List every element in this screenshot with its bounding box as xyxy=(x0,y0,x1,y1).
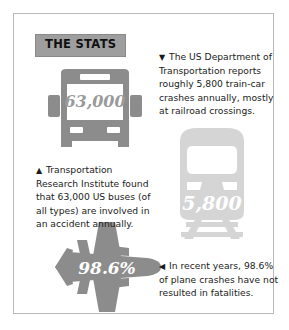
train-illustration: 5,800 xyxy=(166,126,258,239)
plane-callout-text: In recent years, 98.6% of plane crashes … xyxy=(159,260,278,298)
stats-badge-label: THE STATS xyxy=(45,39,116,51)
bus-callout: ▲ Transportation Research Institute foun… xyxy=(36,163,156,230)
plane-value-label: 98.6% xyxy=(78,258,136,278)
triangle-down-icon: ▼ xyxy=(159,53,166,62)
train-value-label: 5,800 xyxy=(182,192,242,214)
plane-illustration: 98.6% xyxy=(47,222,165,312)
train-callout: ▼ The US Department of Transportation re… xyxy=(159,50,279,117)
bus-callout-text: Transportation Research Institute found … xyxy=(36,164,150,229)
triangle-up-icon: ▲ xyxy=(36,166,43,175)
plane-callout: ◀ In recent years, 98.6% of plane crashe… xyxy=(159,259,279,300)
stats-badge: THE STATS xyxy=(35,34,126,57)
bus-illustration: 63,000 xyxy=(48,69,142,161)
train-callout-text: The US Department of Transportation repo… xyxy=(159,51,274,116)
triangle-left-icon: ◀ xyxy=(159,262,166,271)
bus-value-label: 63,000 xyxy=(64,92,125,111)
infographic-panel: THE STATS 63,000 xyxy=(13,13,274,314)
